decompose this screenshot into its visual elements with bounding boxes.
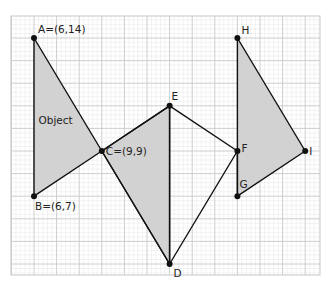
point-label-D: D: [174, 267, 182, 279]
point-E: [167, 103, 173, 109]
image-triangle-1: [102, 106, 170, 264]
shape-edges: [102, 106, 238, 264]
image-triangle-2: [237, 38, 305, 196]
point-A: [31, 35, 37, 41]
object-label: Object: [39, 114, 73, 126]
point-label-C: C=(9,9): [106, 145, 147, 157]
point-H: [234, 35, 240, 41]
point-label-I: I: [309, 145, 312, 157]
diagram-canvas: ObjectA=(6,14)B=(6,7)C=(9,9)DEFGHI: [0, 0, 331, 292]
point-F: [234, 148, 240, 154]
point-D: [167, 261, 173, 267]
diagram-svg: ObjectA=(6,14)B=(6,7)C=(9,9)DEFGHI: [0, 0, 331, 292]
point-B: [31, 193, 37, 199]
point-label-B: B=(6,7): [35, 200, 76, 212]
point-G: [234, 193, 240, 199]
point-label-G: G: [239, 178, 247, 190]
point-label-E: E: [172, 90, 179, 102]
point-C: [99, 148, 105, 154]
point-I: [302, 148, 308, 154]
segment-FD: [170, 151, 238, 264]
point-label-A: A=(6,14): [38, 23, 86, 35]
point-label-H: H: [241, 24, 249, 36]
point-label-F: F: [241, 142, 247, 154]
